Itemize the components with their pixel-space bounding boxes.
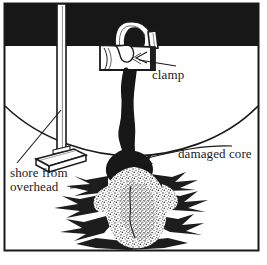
label-damaged-core: damaged core [178, 147, 252, 161]
label-clamp: clamp [152, 68, 184, 82]
figure-caption [0, 254, 267, 265]
illustration-canvas [0, 0, 267, 265]
label-shore-from-overhead: shore fromoverhead [10, 166, 68, 193]
label-shore-line-2: overhead [10, 179, 58, 194]
figure-root: clamp damaged core shore fromoverhead [0, 0, 267, 265]
shore-post [57, 4, 66, 160]
